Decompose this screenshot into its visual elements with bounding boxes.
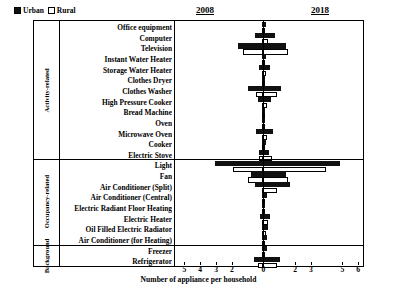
legend-swatch-rural-icon xyxy=(48,7,55,14)
table-row: Microwave Oven xyxy=(33,128,364,139)
zero-axis-line xyxy=(263,191,264,202)
zero-axis-line xyxy=(263,32,264,43)
zero-axis-line xyxy=(263,42,264,53)
bar-zone xyxy=(175,159,363,170)
group-separator xyxy=(33,159,364,160)
chart-figure: Urban Rural 2008 2018 Office equipmentCo… xyxy=(0,0,397,294)
table-row: Light xyxy=(33,159,364,170)
bar-zone xyxy=(175,85,363,96)
table-row: Electric Radiant Floor Heating xyxy=(33,202,364,213)
bar-urban-2008 xyxy=(215,161,263,166)
table-row: Instant Water Heater xyxy=(33,53,364,64)
table-row: Oil Filled Electric Radiator xyxy=(33,223,364,234)
bar-zone xyxy=(175,96,363,107)
table-row: Cooker xyxy=(33,138,364,149)
bar-zone xyxy=(175,128,363,139)
bar-zone xyxy=(175,64,363,75)
table-row: Electric Heater xyxy=(33,213,364,224)
table-row: Electric Stove xyxy=(33,149,364,160)
bar-zone xyxy=(175,42,363,53)
bar-urban-2008 xyxy=(238,43,263,48)
table-row: Air Conditioner (for Heating) xyxy=(33,234,364,245)
zero-axis-line xyxy=(263,245,264,256)
group-label: Background xyxy=(34,245,59,266)
axis-tick-label: 5 xyxy=(341,265,345,274)
table-row: Air Conditioner (Central) xyxy=(33,191,364,202)
group-separator xyxy=(33,245,364,246)
bar-urban-2018 xyxy=(263,182,290,187)
bar-zone xyxy=(175,191,363,202)
zero-axis-line xyxy=(263,170,264,181)
axis-tick-label: 3 xyxy=(309,265,313,274)
bar-zone xyxy=(175,53,363,64)
bar-zone xyxy=(175,213,363,224)
legend-label-rural: Rural xyxy=(57,6,76,15)
bar-zone xyxy=(175,202,363,213)
table-row: Computer xyxy=(33,32,364,43)
axis-tick-label: 2 xyxy=(293,265,297,274)
period-header-right: 2018 xyxy=(311,5,329,15)
zero-axis-line xyxy=(263,106,264,117)
bar-urban-2018 xyxy=(263,65,270,70)
table-row: Air Conditioner (Split) xyxy=(33,181,364,192)
zero-axis-line xyxy=(263,138,264,149)
zero-axis-line xyxy=(263,53,264,64)
group-label: Occupancy-related xyxy=(34,159,59,244)
table-row: Fan xyxy=(33,170,364,181)
zero-axis-line xyxy=(263,74,264,85)
bar-urban-2008 xyxy=(254,257,264,262)
legend-item-rural: Rural xyxy=(48,6,76,15)
bar-urban-2008 xyxy=(248,86,263,91)
bar-urban-2018 xyxy=(263,171,286,176)
bar-zone xyxy=(175,74,363,85)
bar-urban-2008 xyxy=(255,182,264,187)
axis-tick-label: 5 xyxy=(183,265,187,274)
zero-axis-line xyxy=(263,213,264,224)
legend: Urban Rural xyxy=(14,6,76,15)
axis-tick-label: 2 xyxy=(230,265,234,274)
bar-zone xyxy=(175,234,363,245)
table-row: Storage Water Heater xyxy=(33,64,364,75)
bar-zone xyxy=(175,138,363,149)
legend-label-urban: Urban xyxy=(23,6,44,15)
bar-zone xyxy=(175,21,363,32)
table-row: High Pressure Cooker xyxy=(33,96,364,107)
axis-tick-label: 3 xyxy=(214,265,218,274)
axis-tick-label: 0 xyxy=(262,265,266,274)
zero-axis-line xyxy=(263,96,264,107)
bar-zone xyxy=(175,106,363,117)
legend-swatch-urban-icon xyxy=(14,7,21,14)
zero-axis-line xyxy=(263,128,264,139)
table-row: Oven xyxy=(33,117,364,128)
bar-urban-2018 xyxy=(263,97,271,102)
zero-axis-line xyxy=(263,85,264,96)
zero-axis-line xyxy=(263,21,264,32)
zero-axis-line xyxy=(263,181,264,192)
bar-urban-2018 xyxy=(263,257,280,262)
axis-tick-label: 6 xyxy=(356,265,360,274)
bar-zone xyxy=(175,245,363,256)
table-row: Television xyxy=(33,42,364,53)
bar-zone xyxy=(175,223,363,234)
zero-axis-line xyxy=(263,223,264,234)
bar-zone xyxy=(175,117,363,128)
bar-zone xyxy=(175,32,363,43)
zero-axis-line xyxy=(263,202,264,213)
table-row: Bread Machine xyxy=(33,106,364,117)
axis-tick-label: 4 xyxy=(198,265,202,274)
table-row: Freezer xyxy=(33,245,364,256)
zero-axis-line xyxy=(263,159,264,170)
group-label: Activity-related xyxy=(34,21,59,159)
x-axis-label: Number of appliance per household xyxy=(33,275,364,284)
zero-axis-line xyxy=(263,64,264,75)
bar-urban-2008 xyxy=(255,33,264,38)
period-header-left: 2008 xyxy=(196,5,214,15)
bar-zone xyxy=(175,181,363,192)
bar-urban-2018 xyxy=(263,43,286,48)
zero-axis-line xyxy=(263,117,264,128)
table-row: Clothes Washer xyxy=(33,85,364,96)
zero-axis-line xyxy=(263,234,264,245)
bar-urban-2018 xyxy=(263,214,270,219)
bar-urban-2018 xyxy=(263,161,340,166)
bar-urban-2018 xyxy=(263,150,269,155)
